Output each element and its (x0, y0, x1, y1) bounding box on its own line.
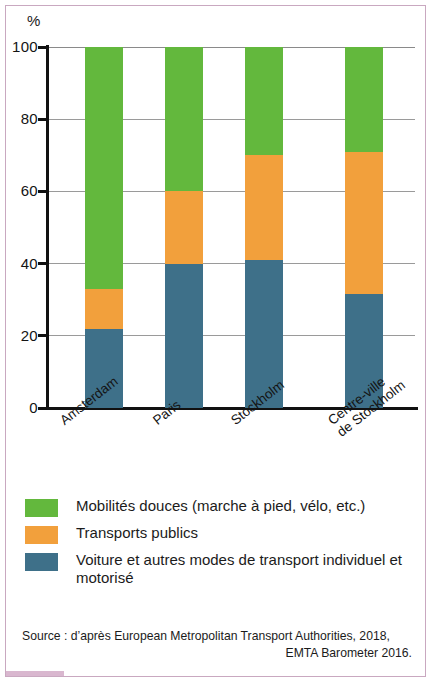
legend-item[interactable]: Voiture et autres modes de transport ind… (0, 551, 431, 588)
y-tick-label-20: 20 (0, 327, 38, 344)
bar-segment (345, 47, 383, 152)
y-tick-label-60: 60 (0, 182, 38, 199)
bar-segment (165, 191, 203, 263)
y-tick-label-80: 80 (0, 110, 38, 127)
legend-item[interactable]: Mobilités douces (marche à pied, vélo, e… (0, 497, 431, 517)
legend-color-swatch (25, 526, 58, 544)
y-tick-label-0: 0 (0, 399, 38, 416)
bar-segment (165, 264, 203, 408)
bar-stockholm (245, 47, 283, 408)
plot-area (48, 47, 415, 408)
bar-centre-ville-de-stockholm (345, 47, 383, 408)
y-tick-label-wrap-60: 60 (0, 182, 38, 198)
bar-paris (165, 47, 203, 408)
bar-segment (345, 152, 383, 295)
bar-segment (245, 155, 283, 260)
stacked-bar-chart: % 020406080100 AmsterdamParisStockholmCe… (0, 0, 431, 470)
chart-legend: Mobilités douces (marche à pied, vélo, e… (0, 497, 431, 595)
y-tick-label-100: 100 (0, 38, 38, 55)
y-tick-label-wrap-0: 0 (0, 399, 38, 415)
corner-accent-bar (6, 671, 64, 676)
source-note: Source : d’après European Metropolitan T… (22, 628, 412, 662)
y-tick-label-wrap-40: 40 (0, 255, 38, 271)
y-tick-label-wrap-20: 20 (0, 327, 38, 343)
bar-amsterdam (85, 47, 123, 408)
y-tick-label-wrap-100: 100 (0, 38, 38, 54)
bar-segment (85, 47, 123, 289)
figure-page: % 020406080100 AmsterdamParisStockholmCe… (0, 0, 431, 682)
source-line-1: Source : d’après European Metropolitan T… (22, 628, 412, 645)
source-line-2: EMTA Barometer 2016. (22, 645, 412, 662)
bar-segment (85, 289, 123, 329)
bar-segment (165, 47, 203, 191)
legend-label: Transports publics (76, 524, 198, 542)
y-tick-label-wrap-80: 80 (0, 110, 38, 126)
y-tick-label-40: 40 (0, 255, 38, 272)
legend-color-swatch (25, 553, 58, 571)
legend-label: Voiture et autres modes de transport ind… (76, 551, 426, 588)
y-axis-unit-label: % (27, 12, 41, 29)
legend-color-swatch (25, 499, 58, 517)
bar-segment (245, 47, 283, 155)
legend-label: Mobilités douces (marche à pied, vélo, e… (76, 497, 365, 515)
legend-item[interactable]: Transports publics (0, 524, 431, 544)
